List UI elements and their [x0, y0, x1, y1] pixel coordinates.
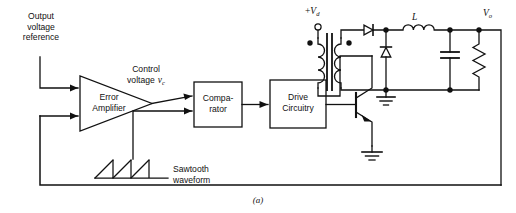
supply-terminal-circle: [315, 24, 321, 30]
freewheeling-diode: [381, 30, 392, 90]
transformer-core: [327, 34, 332, 90]
sawtooth-input-wire: [133, 108, 192, 159]
supply-voltage-label: +Vd: [305, 6, 319, 19]
inductor-label: L: [412, 12, 417, 23]
filter-inductor: [386, 25, 450, 30]
control-voltage-label: Control voltagevc: [110, 64, 182, 88]
control-voltage-wire: [152, 93, 192, 103]
primary-polarity-dot: [307, 40, 312, 45]
feedback-input-wire: [40, 113, 78, 120]
comparator-to-drive-wire: [242, 101, 268, 108]
secondary-ground: [377, 90, 395, 105]
drive-circuitry-label: Drive Circuitry: [270, 92, 326, 113]
figure-caption: (a): [0, 195, 516, 205]
filter-capacitor: [441, 30, 459, 90]
primary-ground: [362, 146, 382, 160]
output-node-wire: [450, 30, 501, 185]
load-resistor: [473, 30, 485, 90]
rectifier-diode: [364, 25, 373, 35]
secondary-polarity-dot: [346, 40, 351, 45]
comparator-label: Compa- rator: [194, 93, 242, 114]
secondary-bottom-wire: [341, 88, 386, 90]
circuit-schematic: [0, 0, 516, 213]
error-amplifier-label: Error Amplifier: [80, 92, 138, 113]
reference-input-wire: [40, 57, 78, 91]
output-voltage-label: Vo: [483, 8, 492, 21]
npn-bjt-switch: [356, 56, 372, 146]
output-voltage-reference-label: Output voltage reference: [8, 11, 74, 43]
sawtooth-waveform-label: Sawtooth waveform: [173, 164, 210, 185]
sawtooth-waveform: [95, 160, 168, 178]
